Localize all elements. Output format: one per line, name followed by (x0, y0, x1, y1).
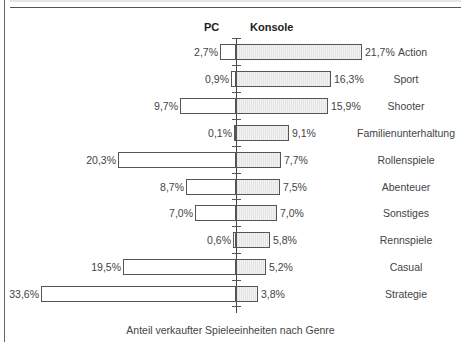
value-konsole: 5,2% (269, 259, 293, 275)
bar-konsole (236, 152, 281, 168)
chart-caption: Anteil verkaufter Spieleeinheiten nach G… (0, 324, 461, 336)
value-pc: 33,6% (9, 286, 39, 302)
axis-tick (232, 65, 241, 66)
axis-tick (232, 92, 241, 93)
genre-label: Strategie (350, 286, 461, 302)
legend-konsole: Konsole (250, 21, 293, 33)
cropped-text-remnant (10, 0, 461, 2)
bar-konsole (236, 98, 328, 114)
value-konsole: 21,7% (365, 44, 395, 60)
axis-tick (232, 199, 241, 200)
genre-label: Sonstiges (350, 205, 461, 221)
genre-label: Casual (350, 259, 461, 275)
value-pc: 9,7% (154, 98, 178, 114)
value-konsole: 7,7% (284, 152, 308, 168)
value-konsole: 5,8% (273, 232, 297, 248)
value-konsole: 7,5% (283, 179, 307, 195)
frame-left-border (4, 0, 5, 342)
value-pc: 8,7% (160, 179, 184, 195)
bar-konsole (236, 125, 289, 141)
bar-pc (186, 179, 236, 195)
axis-tick (232, 280, 241, 281)
genre-label: Rollenspiele (350, 152, 461, 168)
bar-konsole (236, 286, 258, 302)
bar-pc (180, 98, 236, 114)
genre-label: Shooter (350, 98, 461, 114)
genre-label: Sport (350, 71, 461, 87)
value-pc: 20,3% (86, 152, 116, 168)
value-pc: 0,9% (205, 71, 229, 87)
axis-tick (232, 38, 241, 39)
axis-tick (232, 253, 241, 254)
genre-label: Abenteuer (350, 179, 461, 195)
bar-pc (41, 286, 236, 302)
bar-pc (195, 205, 236, 221)
value-pc: 0,1% (208, 125, 232, 141)
value-pc: 0,6% (207, 232, 231, 248)
value-pc: 2,7% (194, 44, 218, 60)
genre-label: Action (398, 44, 427, 60)
axis-tick (232, 226, 241, 227)
bar-konsole (236, 71, 331, 87)
legend-pc: PC (204, 21, 219, 33)
axis-tick (232, 173, 241, 174)
value-pc: 7,0% (169, 205, 193, 221)
bar-konsole (236, 232, 270, 248)
top-rule (10, 7, 461, 8)
bar-pc (123, 259, 236, 275)
bar-pc (118, 152, 236, 168)
genre-label: Rennspiele (350, 232, 461, 248)
bar-konsole (236, 44, 362, 60)
bar-konsole (236, 259, 266, 275)
value-konsole: 7,0% (280, 205, 304, 221)
bar-konsole (236, 179, 280, 195)
axis-tick (232, 146, 241, 147)
bar-pc (220, 44, 236, 60)
bar-konsole (236, 205, 277, 221)
axis-tick (232, 306, 241, 307)
axis-tick (232, 119, 241, 120)
genre-label: Familienunterhaltung (350, 125, 461, 141)
value-konsole: 3,8% (261, 286, 285, 302)
value-konsole: 9,1% (292, 125, 316, 141)
value-pc: 19,5% (91, 259, 121, 275)
